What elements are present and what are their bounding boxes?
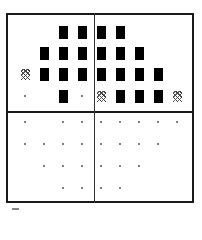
- upper-cell: [73, 86, 92, 107]
- upper-cell: [111, 22, 130, 43]
- black-block: [154, 90, 163, 103]
- dot-marker: [100, 187, 102, 189]
- lower-cell: [35, 156, 54, 177]
- dot-marker: [138, 165, 140, 167]
- dot-marker: [138, 143, 140, 145]
- black-block: [135, 47, 144, 60]
- dithered-tile-icon: [173, 91, 182, 102]
- lower-cell: [73, 134, 92, 155]
- upper-cell: [16, 86, 35, 107]
- dot-marker: [119, 165, 121, 167]
- lower-cell: [111, 178, 130, 199]
- dithered-tile-icon: [21, 69, 30, 80]
- lower-cell: [111, 112, 130, 133]
- upper-cell: [149, 64, 168, 85]
- upper-cell: [111, 64, 130, 85]
- dot-marker: [81, 165, 83, 167]
- dot-marker: [24, 121, 26, 123]
- lower-cell: [54, 156, 73, 177]
- upper-cell: [130, 43, 149, 64]
- lower-cell: [73, 112, 92, 133]
- dot-marker: [176, 121, 178, 123]
- upper-cell: [168, 86, 187, 107]
- black-block: [135, 68, 144, 81]
- dot-marker: [81, 121, 83, 123]
- dot-marker: [62, 143, 64, 145]
- footer-mark: [12, 208, 19, 210]
- lower-cell: [54, 178, 73, 199]
- upper-cell: [35, 43, 54, 64]
- upper-cell: [111, 43, 130, 64]
- upper-cell: [92, 64, 111, 85]
- upper-cell: [54, 64, 73, 85]
- upper-cell: [35, 64, 54, 85]
- black-block: [116, 68, 125, 81]
- upper-cell: [149, 86, 168, 107]
- lower-cell: [130, 156, 149, 177]
- dot-marker: [43, 165, 45, 167]
- lower-cell: [149, 134, 168, 155]
- lower-cell: [73, 178, 92, 199]
- lower-cell: [92, 156, 111, 177]
- upper-cell: [54, 22, 73, 43]
- dot-marker: [100, 165, 102, 167]
- black-block: [40, 68, 49, 81]
- lower-cell: [73, 156, 92, 177]
- dot-marker: [100, 143, 102, 145]
- lower-cell: [16, 112, 35, 133]
- dot-marker: [62, 165, 64, 167]
- dot-marker: [138, 121, 140, 123]
- upper-cell: [73, 64, 92, 85]
- black-block: [154, 68, 163, 81]
- lower-cell: [130, 134, 149, 155]
- black-block: [59, 90, 68, 103]
- dithered-tile-icon: [97, 91, 106, 102]
- lower-cell: [92, 178, 111, 199]
- dot-marker: [119, 121, 121, 123]
- upper-cell: [130, 86, 149, 107]
- dot-marker: [24, 95, 26, 97]
- black-block: [116, 47, 125, 60]
- black-block: [78, 68, 87, 81]
- black-block: [116, 26, 125, 39]
- black-block: [135, 90, 144, 103]
- lower-cell: [111, 156, 130, 177]
- dot-marker: [62, 187, 64, 189]
- lower-cell: [149, 112, 168, 133]
- upper-cell: [73, 22, 92, 43]
- upper-cell: [130, 64, 149, 85]
- upper-cell: [73, 43, 92, 64]
- black-block: [59, 68, 68, 81]
- dot-marker: [81, 187, 83, 189]
- lower-cell: [92, 134, 111, 155]
- lower-cell: [130, 112, 149, 133]
- black-block: [97, 68, 106, 81]
- upper-cell: [92, 22, 111, 43]
- upper-cell: [16, 64, 35, 85]
- lower-cell: [111, 134, 130, 155]
- dot-marker: [157, 143, 159, 145]
- dot-marker: [24, 143, 26, 145]
- dot-marker: [157, 121, 159, 123]
- dot-marker: [81, 95, 83, 97]
- black-block: [116, 90, 125, 103]
- black-block: [59, 47, 68, 60]
- lower-cell: [54, 134, 73, 155]
- upper-cell: [111, 86, 130, 107]
- dot-marker: [100, 121, 102, 123]
- lower-cell: [54, 112, 73, 133]
- upper-cell: [92, 86, 111, 107]
- dot-marker: [43, 143, 45, 145]
- black-block: [78, 26, 87, 39]
- lower-cell: [16, 134, 35, 155]
- black-block: [97, 47, 106, 60]
- black-block: [78, 47, 87, 60]
- lower-cell: [35, 134, 54, 155]
- dot-marker: [81, 143, 83, 145]
- dot-marker: [119, 187, 121, 189]
- upper-cell: [54, 86, 73, 107]
- black-block: [97, 26, 106, 39]
- lower-cell: [168, 112, 187, 133]
- dot-marker: [119, 143, 121, 145]
- black-block: [59, 26, 68, 39]
